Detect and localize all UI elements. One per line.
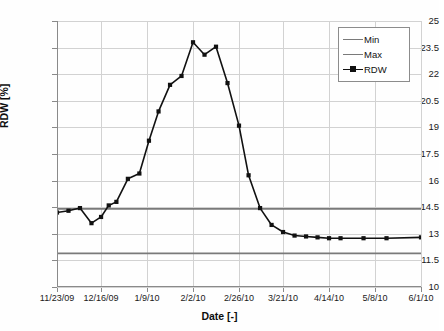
x-axis-title: Date [-] xyxy=(0,310,439,322)
data-point-marker xyxy=(156,109,160,113)
data-point-marker xyxy=(66,209,70,213)
data-point-marker xyxy=(99,215,103,219)
data-point-marker xyxy=(89,221,93,225)
data-point-marker xyxy=(191,40,195,44)
legend-line-swatch-max xyxy=(343,49,363,60)
data-point-marker xyxy=(237,124,241,128)
data-point-marker xyxy=(202,53,206,57)
data-point-marker xyxy=(168,83,172,87)
data-point-marker xyxy=(327,236,331,240)
x-axis-tick-label: 6/1/10 xyxy=(389,293,444,303)
gridline-horizontal xyxy=(57,287,421,288)
data-point-marker xyxy=(384,236,388,240)
data-point-marker xyxy=(147,139,151,143)
y-axis-line xyxy=(57,21,58,287)
data-point-marker xyxy=(419,235,421,239)
data-point-marker xyxy=(246,173,250,177)
legend-line-swatch-rdw xyxy=(343,64,363,75)
legend-label-max: Max xyxy=(363,49,382,60)
legend-label-min: Min xyxy=(363,34,379,45)
data-point-marker xyxy=(114,200,118,204)
data-point-marker xyxy=(258,206,262,210)
x-axis-tickmark xyxy=(421,287,422,292)
legend-item-min: Min xyxy=(343,32,404,47)
chart-legend: Min Max RDW xyxy=(338,27,410,82)
data-point-marker xyxy=(304,234,308,238)
legend-label-rdw: RDW xyxy=(363,64,387,75)
legend-item-max: Max xyxy=(343,47,404,62)
x-axis-line xyxy=(57,286,421,287)
data-point-marker xyxy=(107,203,111,207)
y-axis-title: RDW [%] xyxy=(0,84,10,128)
data-point-marker xyxy=(315,235,319,239)
data-point-marker xyxy=(179,74,183,78)
data-point-marker xyxy=(225,81,229,85)
data-point-marker xyxy=(292,233,296,237)
gridline-vertical xyxy=(421,21,422,287)
data-point-marker xyxy=(281,230,285,234)
data-point-marker xyxy=(269,223,273,227)
data-point-marker xyxy=(137,171,141,175)
legend-line-swatch-min xyxy=(343,34,363,45)
data-point-marker xyxy=(78,206,82,210)
data-point-marker xyxy=(126,177,130,181)
legend-item-rdw: RDW xyxy=(343,62,404,77)
data-point-marker xyxy=(214,45,218,49)
data-point-marker xyxy=(361,236,365,240)
data-point-marker xyxy=(338,236,342,240)
